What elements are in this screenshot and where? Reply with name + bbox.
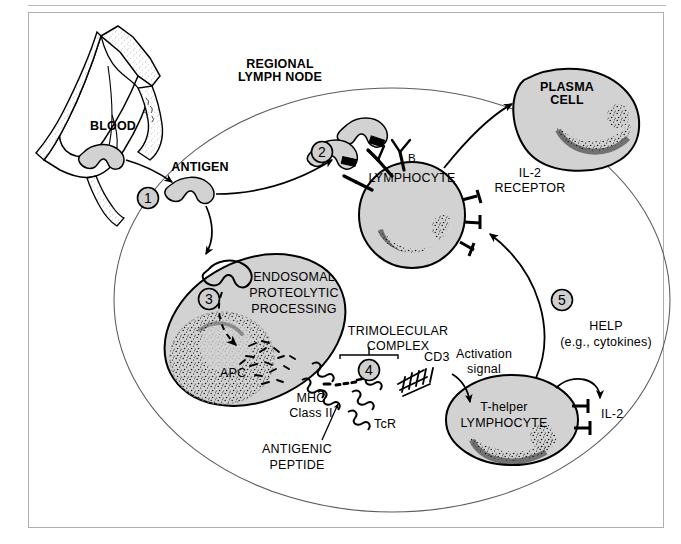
- antigen-label: ANTIGEN: [171, 161, 229, 174]
- cd3-label: CD3: [424, 351, 450, 364]
- apc-label: APC: [220, 367, 246, 380]
- step-5-marker: 5: [552, 290, 573, 311]
- endosomal-label-line3: PROCESSING: [251, 303, 336, 316]
- help-label-line1: HELP: [589, 320, 622, 333]
- apc-cell: [139, 225, 372, 436]
- svg-text:4: 4: [365, 362, 373, 378]
- activation-signal-line1: Activation: [456, 348, 512, 361]
- activation-signal-line2: signal: [467, 363, 501, 376]
- plasma-cell-label-line2: CELL: [550, 94, 583, 107]
- arrow-b-to-plasma: [444, 104, 512, 168]
- trimolecular-label-line1: TRIMOLECULAR: [348, 325, 448, 338]
- il2-receptor-b-cell-3: [460, 242, 474, 256]
- help-label-line2: (e.g., cytokines): [560, 336, 652, 349]
- step-3-marker: 3: [199, 289, 220, 310]
- svg-text:1: 1: [144, 190, 152, 206]
- il2-label: IL-2: [601, 408, 623, 421]
- lymph-node-title-line2: LYMPH NODE: [238, 71, 322, 84]
- figure-root: 1 2 3 4 5 REGIONAL LYMPH NODE BLOOD ANTI…: [0, 0, 681, 544]
- antigenic-peptide-label-line2: PEPTIDE: [270, 459, 325, 472]
- arrow-antigen-release: [126, 160, 172, 182]
- tcr-label: TcR: [374, 418, 396, 431]
- mhc-label-line1: MHC: [296, 392, 325, 405]
- step-1-marker: 1: [138, 188, 159, 209]
- b-lymphocyte-label-line2: LYMPHOCYTE: [368, 172, 455, 185]
- svg-text:3: 3: [205, 291, 213, 307]
- mhc-label-line2: Class II: [289, 407, 332, 420]
- t-helper-label-line1: T-helper: [480, 401, 527, 414]
- cd3-molecules: [398, 368, 433, 396]
- il2-receptor-b-cell-2: [464, 215, 480, 229]
- b-lymphocyte-label-line1: B: [408, 152, 416, 164]
- blood-label: BLOOD: [90, 120, 136, 133]
- antigenic-peptide-label-line1: ANTIGENIC: [262, 443, 332, 456]
- t-helper-label-line2: LYMPHOCYTE: [460, 417, 547, 430]
- endosomal-label-line2: PROTEOLYTIC: [249, 287, 338, 300]
- arrow-antigen-to-apc: [206, 206, 212, 254]
- endosomal-label-line1: ENDOSOMAL: [253, 271, 335, 284]
- svg-text:2: 2: [318, 144, 326, 160]
- il2-receptor-b-cell-1: [462, 190, 481, 203]
- trimolecular-label-line2: COMPLEX: [367, 340, 430, 353]
- step-4-marker: 4: [359, 360, 380, 381]
- step-2-marker: 2: [312, 142, 333, 163]
- antigenic-peptide-bridge: [324, 379, 362, 385]
- il2-receptor-label-line1: IL-2: [519, 167, 541, 180]
- svg-text:5: 5: [558, 292, 566, 308]
- il2-receptor-label-line2: RECEPTOR: [495, 182, 566, 195]
